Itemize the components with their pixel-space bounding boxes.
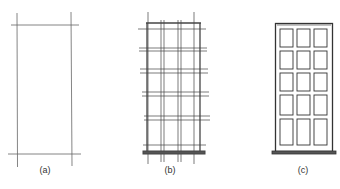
panel-c-drawing — [272, 24, 336, 155]
panel-c-label: (c) — [298, 165, 309, 175]
panel-a-label: (a) — [40, 165, 51, 175]
panel-a-drawing — [8, 12, 81, 167]
door-panels — [280, 29, 327, 145]
panel-b-label: (b) — [165, 165, 176, 175]
panel-b-drawing — [138, 12, 210, 164]
drawing-canvas — [0, 0, 340, 189]
